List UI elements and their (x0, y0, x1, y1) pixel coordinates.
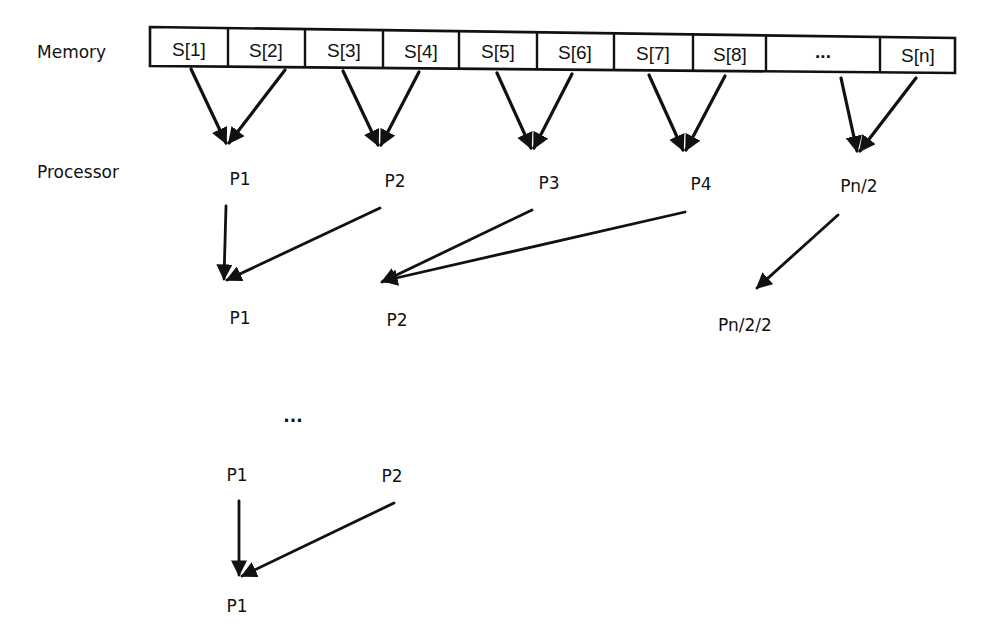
arrow-icon (497, 73, 531, 148)
memory-cell-7: S[7] (636, 43, 670, 64)
level1-arrows (191, 69, 916, 151)
memory-cell-2: S[2] (249, 40, 283, 61)
arrow-icon (841, 78, 857, 151)
arrow-icon (649, 75, 683, 150)
level1-processor-p2: P2 (384, 171, 405, 191)
arrow-icon (757, 215, 838, 288)
levels-ellipsis: ... (283, 406, 302, 426)
memory-cell-6: S[6] (558, 42, 592, 63)
level1-processor-p4: P4 (690, 174, 711, 194)
memory-cell-8: S[8] (713, 44, 747, 65)
level2-arrows (224, 206, 838, 288)
level1-processor-p3: P3 (538, 173, 559, 193)
penultimate-processor-p2: P2 (381, 466, 402, 486)
arrow-icon (534, 74, 572, 148)
arrow-icon (242, 503, 394, 576)
level2-processor-pn22: Pn/2/2 (718, 315, 772, 335)
final-processor-p1: P1 (226, 596, 247, 616)
arrow-icon (224, 206, 226, 279)
processor-row-label: Processor (37, 162, 119, 182)
memory-cell-4: S[4] (404, 41, 438, 62)
arrow-icon (191, 69, 226, 143)
memory-cell-n: S[n] (901, 45, 935, 66)
arrow-icon (382, 210, 532, 282)
arrow-icon (383, 212, 685, 281)
final-level-arrows (239, 501, 394, 576)
level1-processor-p1: P1 (229, 169, 250, 189)
level2-processor-p2: P2 (386, 310, 407, 330)
memory-cell-3: S[3] (327, 40, 361, 61)
memory-cell-5: S[5] (481, 41, 515, 62)
memory-row-label: Memory (37, 42, 106, 62)
arrow-icon (686, 76, 725, 150)
arrow-icon (381, 72, 419, 145)
arrow-icon (227, 208, 380, 280)
memory-array: S[1] S[2] S[3] S[4] S[5] S[6] S[7] S[8] … (150, 27, 955, 73)
arrow-icon (860, 78, 916, 151)
memory-cell-ellipsis: ... (815, 41, 831, 62)
level1-processor-pn2: Pn/2 (840, 176, 877, 196)
parallel-reduction-diagram: Memory Processor S[1] S[2] S[3] S[4] S[5… (0, 0, 987, 644)
arrow-icon (229, 70, 285, 143)
arrow-icon (343, 71, 378, 145)
level2-processor-p1: P1 (229, 308, 250, 328)
penultimate-processor-p1: P1 (226, 465, 247, 485)
memory-cell-1: S[1] (172, 39, 206, 60)
